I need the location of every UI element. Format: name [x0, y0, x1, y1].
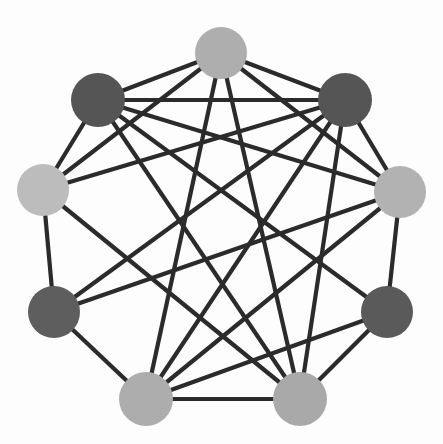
- graph-node-left[interactable]: [17, 164, 69, 216]
- graph-node-upper-left[interactable]: [71, 73, 125, 127]
- graph-edge: [300, 100, 345, 399]
- network-graph-figure: [0, 0, 443, 444]
- graph-node-lower-right[interactable]: [361, 286, 413, 338]
- graph-node-right[interactable]: [374, 166, 426, 218]
- graph-edge: [146, 312, 387, 399]
- graph-node-top[interactable]: [195, 27, 247, 79]
- graph-node-bottom-left[interactable]: [119, 372, 173, 426]
- graph-node-upper-right[interactable]: [318, 73, 372, 127]
- node-layer: [17, 27, 426, 426]
- graph-node-bottom-right[interactable]: [273, 372, 327, 426]
- graph-node-lower-left[interactable]: [28, 286, 80, 338]
- graph-canvas-svg: [0, 0, 443, 444]
